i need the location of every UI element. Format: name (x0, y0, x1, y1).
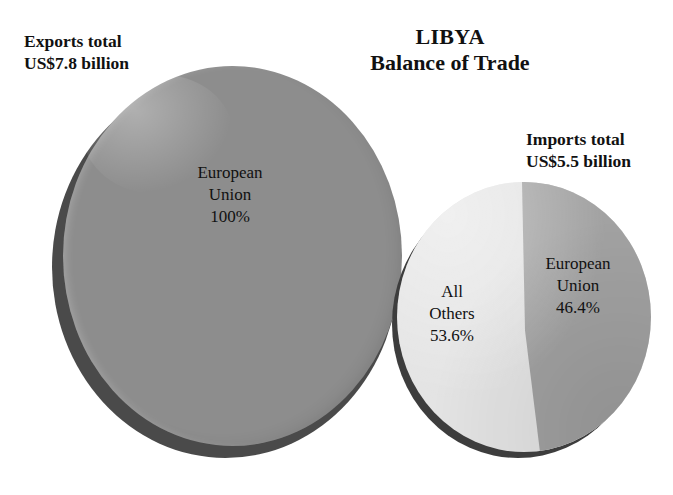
pie-imports-others-label: All Others 53.6% (404, 281, 500, 347)
imports-others-value: 53.6% (404, 325, 500, 347)
imports-total-line1: Imports total (526, 128, 631, 150)
imports-total-line2: US$5.5 billion (526, 150, 631, 172)
pie-exports-slice-label: European Union 100% (140, 162, 320, 228)
pie-imports-eu-label: European Union 46.4% (516, 253, 640, 319)
exports-slice-label-line1: European (140, 162, 320, 184)
chart-canvas: Exports total US$7.8 billion LIBYA Balan… (0, 0, 673, 495)
imports-eu-label-line1: European (516, 253, 640, 275)
pie-chart-exports (52, 66, 412, 458)
exports-total-line1: Exports total (24, 30, 129, 52)
imports-eu-value: 46.4% (516, 297, 640, 319)
title-line-country: LIBYA (330, 24, 570, 50)
pie-exports-slice-european-union (63, 66, 402, 446)
imports-eu-label-line2: Union (516, 275, 640, 297)
exports-slice-label-line2: Union (140, 184, 320, 206)
imports-others-label-line1: All (404, 281, 500, 303)
exports-slice-value: 100% (140, 206, 320, 228)
imports-others-label-line2: Others (404, 303, 500, 325)
imports-total-label: Imports total US$5.5 billion (526, 128, 631, 173)
